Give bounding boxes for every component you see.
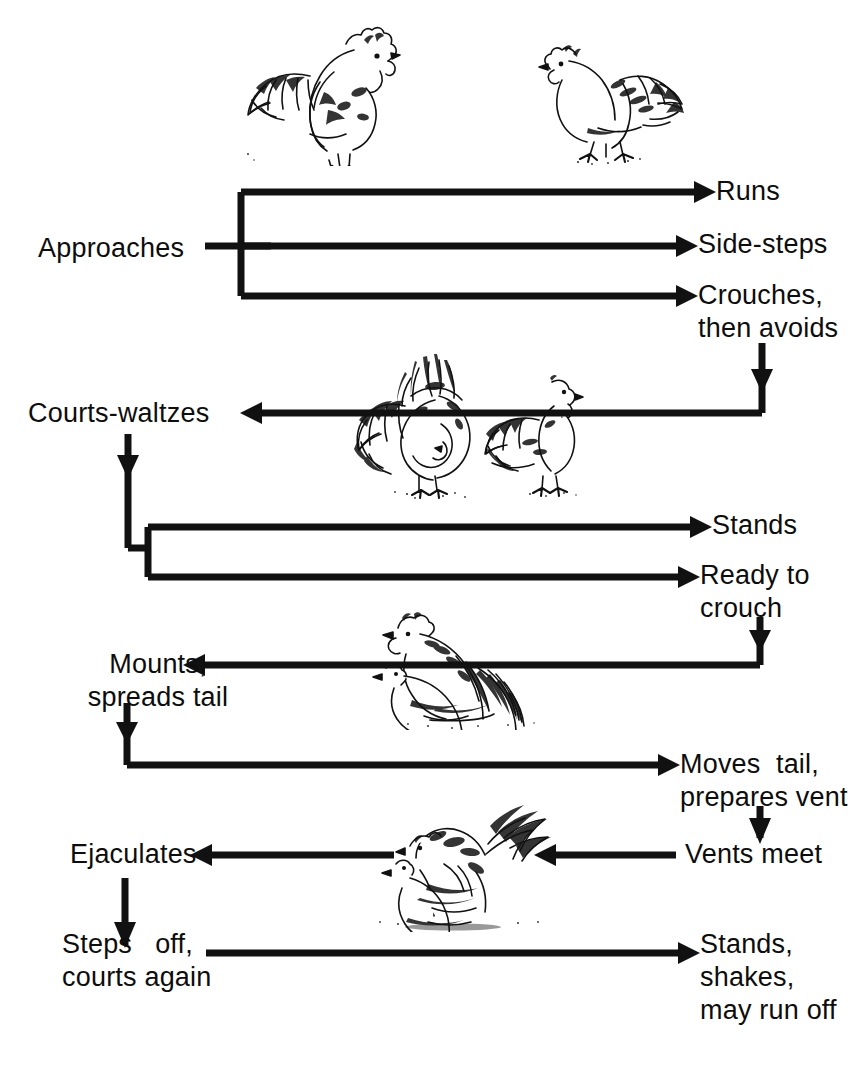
node-approaches[interactable]: Approaches	[38, 232, 184, 265]
node-runs[interactable]: Runs	[716, 175, 780, 208]
edge-steps-off-to-stands-shakes	[206, 942, 700, 964]
illustration-hen-standing-small	[468, 364, 592, 498]
node-ejaculates[interactable]: Ejaculates	[70, 838, 197, 871]
edge-approaches-branch	[205, 181, 716, 307]
node-stands[interactable]: Stands	[712, 509, 797, 542]
node-side-steps[interactable]: Side-steps	[698, 228, 828, 261]
illustration-hen-walking	[528, 24, 706, 166]
node-steps-off-courts-again[interactable]: Steps off, courts again	[62, 928, 212, 994]
diagram-canvas: Approaches Runs Side-steps Crouches, the…	[0, 0, 866, 1071]
node-ready-to-crouch[interactable]: Ready to crouch	[700, 559, 810, 625]
node-courts-waltzes[interactable]: Courts-waltzes	[28, 397, 209, 430]
node-moves-tail-prepares-vent[interactable]: Moves tail, prepares vent	[680, 748, 848, 814]
node-stands-shakes-may-run-off[interactable]: Stands, shakes, may run off	[700, 928, 837, 1027]
illustration-rooster-mounting	[368, 604, 568, 730]
node-mounts-spreads-tail[interactable]: Mounts, spreads tail	[63, 648, 253, 714]
node-crouches-then-avoids[interactable]: Crouches, then avoids	[698, 279, 838, 345]
illustration-pair-mating	[358, 796, 590, 932]
node-vents-meet[interactable]: Vents meet	[685, 838, 822, 871]
illustration-rooster-standing	[228, 14, 408, 166]
